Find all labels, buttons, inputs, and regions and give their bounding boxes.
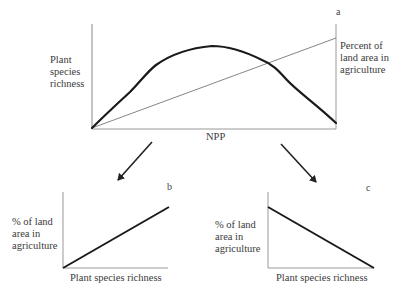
species-richness-curve <box>92 46 336 128</box>
panel-c-negative-line <box>268 207 374 268</box>
panel-a-x-label: NPP <box>206 131 225 143</box>
agriculture-trend-line <box>92 38 336 128</box>
arrow-to-panel-c <box>281 144 316 182</box>
panel-b-letter: b <box>167 181 172 192</box>
panel-b-x-label: Plant species richness <box>70 272 162 284</box>
panel-c-y-label: % of land area in agriculture <box>215 219 260 255</box>
panel-a-chart <box>92 24 336 129</box>
panel-a-y-right-label: Percent of land area in agriculture <box>340 40 389 76</box>
panel-c-x-label: Plant species richness <box>276 272 368 284</box>
arrow-to-panel-b <box>118 142 152 180</box>
panel-a-y-left-label: Plant species richness <box>50 54 84 90</box>
panel-a-letter: a <box>336 6 340 17</box>
panel-c-letter: c <box>366 182 370 193</box>
panel-b-chart <box>63 192 169 268</box>
panel-c-chart <box>268 192 374 268</box>
panel-b-positive-line <box>63 207 169 268</box>
panel-b-y-label: % of land area in agriculture <box>12 216 57 252</box>
